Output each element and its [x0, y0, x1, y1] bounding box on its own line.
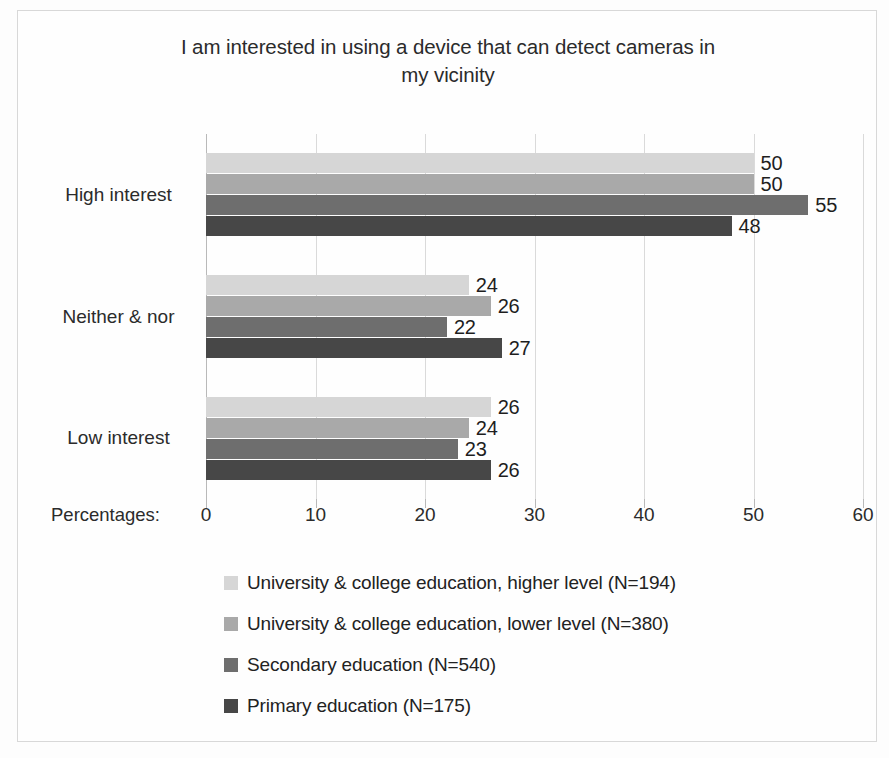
legend-label: Secondary education (N=540)	[247, 654, 496, 676]
bar[interactable]	[206, 317, 447, 337]
bar-row: 26	[206, 460, 863, 480]
legend-label: University & college education, higher l…	[247, 572, 676, 594]
x-tick-label: 0	[201, 504, 212, 526]
chart-title-line-1: I am interested in using a device that c…	[78, 33, 818, 61]
bar-row: 22	[206, 317, 863, 337]
bar[interactable]	[206, 153, 754, 173]
bar-row: 23	[206, 439, 863, 459]
bar[interactable]	[206, 397, 491, 417]
bar-value-label: 24	[476, 416, 498, 439]
bar-value-label: 26	[498, 395, 520, 418]
x-tick-label: 10	[305, 504, 326, 526]
category-label: High interest	[36, 184, 201, 206]
bar[interactable]	[206, 296, 491, 316]
bar-row: 50	[206, 153, 863, 173]
bar-group: 26242326	[206, 397, 863, 480]
bar-row: 27	[206, 338, 863, 358]
bar-value-label: 27	[509, 337, 531, 360]
bar[interactable]	[206, 275, 469, 295]
bar-value-label: 48	[739, 215, 761, 238]
bar[interactable]	[206, 216, 732, 236]
bar[interactable]	[206, 439, 458, 459]
bar[interactable]	[206, 460, 491, 480]
x-axis-tick-labels: 0102030405060	[206, 504, 863, 530]
legend-item[interactable]: University & college education, higher l…	[224, 562, 844, 603]
bar[interactable]	[206, 195, 808, 215]
bar-value-label: 26	[498, 295, 520, 318]
legend-item[interactable]: University & college education, lower le…	[224, 603, 844, 644]
x-axis-title: Percentages:	[51, 504, 160, 526]
legend-item[interactable]: Primary education (N=175)	[224, 685, 844, 726]
plot-area: 505055482426222726242326	[206, 134, 863, 499]
bar-group: 24262227	[206, 275, 863, 358]
legend-swatch-icon	[224, 699, 238, 713]
bar-value-label: 26	[498, 458, 520, 481]
bar-value-label: 50	[761, 152, 783, 175]
bar-value-label: 24	[476, 274, 498, 297]
bar-group: 50505548	[206, 153, 863, 236]
bar-row: 48	[206, 216, 863, 236]
x-tick-label: 30	[524, 504, 545, 526]
x-tick-label: 40	[633, 504, 654, 526]
bar-row: 24	[206, 275, 863, 295]
gridline	[863, 134, 864, 499]
chart-legend: University & college education, higher l…	[224, 562, 844, 726]
category-label: Low interest	[36, 427, 201, 449]
legend-label: University & college education, lower le…	[247, 613, 669, 635]
chart-frame: I am interested in using a device that c…	[17, 10, 877, 742]
bar-row: 50	[206, 174, 863, 194]
x-tick-label: 20	[414, 504, 435, 526]
bar-value-label: 22	[454, 316, 476, 339]
x-tick-label: 50	[743, 504, 764, 526]
legend-label: Primary education (N=175)	[247, 695, 471, 717]
bar-value-label: 23	[465, 437, 487, 460]
bar-row: 26	[206, 397, 863, 417]
chart-screenshot: I am interested in using a device that c…	[0, 0, 889, 758]
category-axis-labels: High interestNeither & norLow interest	[36, 134, 201, 499]
bar-row: 24	[206, 418, 863, 438]
bar[interactable]	[206, 174, 754, 194]
bar-value-label: 50	[761, 173, 783, 196]
bar[interactable]	[206, 418, 469, 438]
bar[interactable]	[206, 338, 502, 358]
category-label: Neither & nor	[36, 306, 201, 328]
chart-title-line-2: my vicinity	[78, 61, 818, 89]
bar-value-label: 55	[815, 194, 837, 217]
legend-item[interactable]: Secondary education (N=540)	[224, 644, 844, 685]
bar-row: 26	[206, 296, 863, 316]
x-tick-label: 60	[852, 504, 873, 526]
legend-swatch-icon	[224, 658, 238, 672]
legend-swatch-icon	[224, 617, 238, 631]
chart-title: I am interested in using a device that c…	[78, 33, 818, 90]
legend-swatch-icon	[224, 576, 238, 590]
bar-row: 55	[206, 195, 863, 215]
